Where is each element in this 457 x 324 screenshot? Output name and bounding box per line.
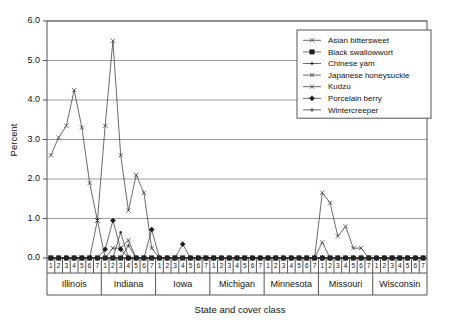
y-tick-label-5.0: 5.0 xyxy=(27,55,40,65)
x-cover-class-label: 1 xyxy=(320,262,324,269)
x-cover-class-label: 2 xyxy=(111,262,115,269)
x-cover-class-label: 3 xyxy=(227,262,231,269)
x-cover-class-label: 2 xyxy=(383,262,387,269)
x-cover-class-label: 1 xyxy=(49,262,53,269)
legend-label: Porcelain berry xyxy=(328,94,382,103)
x-cover-class-label: 6 xyxy=(251,262,255,269)
y-tick-label-0.0: 0.0 xyxy=(27,252,40,262)
x-cover-class-label: 4 xyxy=(344,262,348,269)
data-point-marker xyxy=(120,231,122,233)
x-cover-class-label: 5 xyxy=(352,262,356,269)
x-state-label-michigan: Michigan xyxy=(219,279,255,289)
x-state-label-wisconsin: Wisconsin xyxy=(379,279,420,289)
y-tick-label-4.0: 4.0 xyxy=(27,94,40,104)
x-cover-class-label: 1 xyxy=(375,262,379,269)
x-cover-class-label: 2 xyxy=(57,262,61,269)
x-cover-class-label: 5 xyxy=(406,262,410,269)
x-state-label-missouri: Missouri xyxy=(329,279,363,289)
x-cover-class-label: 7 xyxy=(150,262,154,269)
x-cover-class-label: 7 xyxy=(258,262,262,269)
x-cover-class-label: 2 xyxy=(274,262,278,269)
x-cover-class-label: 4 xyxy=(289,262,293,269)
x-cover-class-label: 7 xyxy=(367,262,371,269)
x-cover-class-label: 7 xyxy=(421,262,425,269)
legend-marker-filled-square-icon xyxy=(310,50,314,54)
x-cover-class-label: 3 xyxy=(65,262,69,269)
x-cover-class-label: 2 xyxy=(165,262,169,269)
legend-label: Chinese yam xyxy=(328,59,375,68)
x-cover-class-label: 7 xyxy=(96,262,100,269)
legend-label: Wintercreeper xyxy=(328,106,379,115)
x-cover-class-label: 6 xyxy=(88,262,92,269)
x-cover-class-label: 3 xyxy=(336,262,340,269)
y-tick-label-1.0: 1.0 xyxy=(27,213,40,223)
x-cover-class-label: 6 xyxy=(414,262,418,269)
x-cover-class-label: 3 xyxy=(173,262,177,269)
x-cover-class-label: 5 xyxy=(189,262,193,269)
x-cover-class-label: 5 xyxy=(243,262,247,269)
x-cover-class-label: 7 xyxy=(313,262,317,269)
x-cover-class-label: 1 xyxy=(103,262,107,269)
x-state-label-indiana: Indiana xyxy=(114,279,144,289)
legend-label: Kudzu xyxy=(328,82,351,91)
x-cover-class-label: 7 xyxy=(204,262,208,269)
x-cover-class-label: 6 xyxy=(359,262,363,269)
x-state-label-minnesota: Minnesota xyxy=(271,279,313,289)
y-tick-label-6.0: 6.0 xyxy=(27,15,40,25)
x-state-label-illinois: Illinois xyxy=(62,279,88,289)
legend-label: Japanese honeysuckle xyxy=(328,71,410,80)
x-cover-class-label: 1 xyxy=(212,262,216,269)
x-cover-class-label: 6 xyxy=(305,262,309,269)
x-cover-class-label: 1 xyxy=(266,262,270,269)
x-cover-class-label: 4 xyxy=(235,262,239,269)
x-cover-class-label: 6 xyxy=(142,262,146,269)
y-axis-title: Percent xyxy=(8,123,19,156)
x-cover-class-label: 6 xyxy=(196,262,200,269)
x-cover-class-label: 5 xyxy=(297,262,301,269)
legend-label: Black swallowwort xyxy=(328,48,394,57)
y-tick-label-3.0: 3.0 xyxy=(27,134,40,144)
x-cover-class-label: 3 xyxy=(282,262,286,269)
x-cover-class-label: 5 xyxy=(134,262,138,269)
x-cover-class-label: 4 xyxy=(181,262,185,269)
chart-legend[interactable]: Asian bittersweetBlack swallowwortChines… xyxy=(297,30,431,118)
x-axis-title: State and cover class xyxy=(195,304,286,315)
x-cover-class-label: 3 xyxy=(119,262,123,269)
x-state-label-iowa: Iowa xyxy=(173,279,192,289)
x-cover-class-label: 1 xyxy=(158,262,162,269)
legend-label: Asian bittersweet xyxy=(328,36,390,45)
percent-by-state-line-chart: 0.01.02.03.04.05.06.0 123456712345671234… xyxy=(0,0,457,324)
legend-marker-dot-icon xyxy=(311,62,313,64)
x-cover-class-label: 4 xyxy=(72,262,76,269)
x-cover-class-label: 4 xyxy=(127,262,131,269)
x-cover-class-label: 5 xyxy=(80,262,84,269)
x-cover-class-label: 3 xyxy=(390,262,394,269)
y-tick-label-2.0: 2.0 xyxy=(27,173,40,183)
x-cover-class-label: 4 xyxy=(398,262,402,269)
chart-figure: 0.01.02.03.04.05.06.0 123456712345671234… xyxy=(0,0,457,324)
x-cover-class-label: 2 xyxy=(328,262,332,269)
x-cover-class-label: 2 xyxy=(220,262,224,269)
